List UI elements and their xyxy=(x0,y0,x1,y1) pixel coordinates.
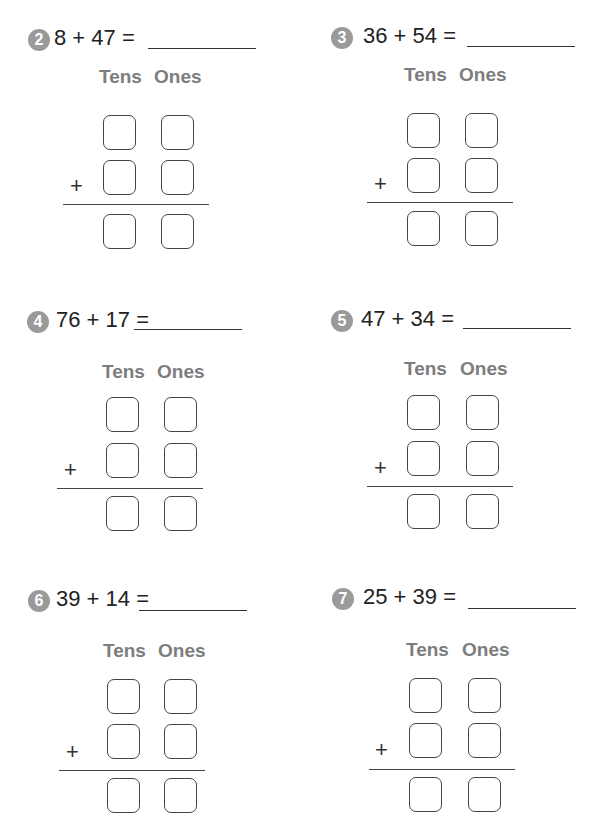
equation-text: 47 + 34 = xyxy=(361,306,454,332)
addend1-ones-box[interactable] xyxy=(466,395,499,430)
plus-sign: + xyxy=(375,737,388,763)
problem-5: 5 47 + 34 = Tens Ones + xyxy=(331,310,605,580)
sum-ones-box[interactable] xyxy=(465,211,498,246)
addend1-ones-box[interactable] xyxy=(465,113,498,148)
sum-tens-box[interactable] xyxy=(409,777,442,812)
sum-rule xyxy=(367,486,513,487)
ones-header: Ones xyxy=(154,66,202,88)
problem-7: 7 25 + 39 = Tens Ones + xyxy=(332,588,605,837)
tens-header: Tens xyxy=(102,361,145,383)
addend2-ones-box[interactable] xyxy=(164,724,197,759)
addend2-ones-box[interactable] xyxy=(161,160,194,195)
sum-tens-box[interactable] xyxy=(407,494,440,529)
answer-blank[interactable] xyxy=(467,46,575,47)
problem-4: 4 76 + 17 = Tens Ones + xyxy=(27,311,327,581)
sum-tens-box[interactable] xyxy=(106,496,139,531)
equation-text: 8 + 47 = xyxy=(54,25,135,51)
tens-header: Tens xyxy=(404,64,447,86)
addend1-tens-box[interactable] xyxy=(103,115,136,150)
answer-blank[interactable] xyxy=(463,328,571,329)
addend1-tens-box[interactable] xyxy=(407,395,440,430)
addend1-tens-box[interactable] xyxy=(407,113,440,148)
addend2-tens-box[interactable] xyxy=(407,158,440,193)
sum-rule xyxy=(367,202,513,203)
plus-sign: + xyxy=(70,173,83,199)
tens-header: Tens xyxy=(406,639,449,661)
answer-blank[interactable] xyxy=(134,329,242,330)
ones-header: Ones xyxy=(460,358,508,380)
tens-header: Tens xyxy=(99,66,142,88)
sum-tens-box[interactable] xyxy=(407,211,440,246)
sum-rule xyxy=(59,770,205,771)
addend1-tens-box[interactable] xyxy=(409,678,442,713)
tens-header: Tens xyxy=(404,358,447,380)
tens-header: Tens xyxy=(103,640,146,662)
plus-sign: + xyxy=(66,739,79,765)
sum-tens-box[interactable] xyxy=(107,778,140,813)
problem-3: 3 36 + 54 = Tens Ones + xyxy=(331,27,605,297)
sum-ones-box[interactable] xyxy=(164,496,197,531)
plus-sign: + xyxy=(64,457,77,483)
problem-6: 6 39 + 14 = Tens Ones + xyxy=(28,590,328,837)
plus-sign: + xyxy=(374,455,387,481)
addend2-ones-box[interactable] xyxy=(466,441,499,476)
addend1-ones-box[interactable] xyxy=(164,397,197,432)
sum-tens-box[interactable] xyxy=(103,214,136,249)
answer-blank[interactable] xyxy=(468,608,576,609)
sum-ones-box[interactable] xyxy=(164,778,197,813)
addend2-tens-box[interactable] xyxy=(106,443,139,478)
ones-header: Ones xyxy=(157,361,205,383)
addend2-ones-box[interactable] xyxy=(465,158,498,193)
problem-number-badge: 7 xyxy=(332,588,354,610)
problem-2: 2 8 + 47 = Tens Ones + xyxy=(28,29,328,299)
ones-header: Ones xyxy=(158,640,206,662)
addend1-ones-box[interactable] xyxy=(161,115,194,150)
equation-text: 25 + 39 = xyxy=(363,584,456,610)
addend1-tens-box[interactable] xyxy=(106,397,139,432)
problem-number-badge: 6 xyxy=(28,590,50,612)
addend1-tens-box[interactable] xyxy=(107,679,140,714)
ones-header: Ones xyxy=(462,639,510,661)
sum-rule xyxy=(369,769,515,770)
sum-ones-box[interactable] xyxy=(466,494,499,529)
answer-blank[interactable] xyxy=(139,610,247,611)
equation-text: 39 + 14 = xyxy=(56,586,149,612)
sum-ones-box[interactable] xyxy=(161,214,194,249)
addend2-ones-box[interactable] xyxy=(164,443,197,478)
addend1-ones-box[interactable] xyxy=(468,678,501,713)
addend2-tens-box[interactable] xyxy=(409,723,442,758)
problem-number-badge: 2 xyxy=(28,29,50,51)
addend2-tens-box[interactable] xyxy=(103,160,136,195)
problem-number-badge: 4 xyxy=(27,311,49,333)
addend1-ones-box[interactable] xyxy=(164,679,197,714)
plus-sign: + xyxy=(374,171,387,197)
addend2-tens-box[interactable] xyxy=(107,724,140,759)
sum-ones-box[interactable] xyxy=(468,777,501,812)
problem-number-badge: 3 xyxy=(331,27,353,49)
addend2-ones-box[interactable] xyxy=(468,723,501,758)
ones-header: Ones xyxy=(459,64,507,86)
sum-rule xyxy=(57,488,203,489)
addend2-tens-box[interactable] xyxy=(407,441,440,476)
problem-number-badge: 5 xyxy=(331,310,353,332)
answer-blank[interactable] xyxy=(148,48,256,49)
equation-text: 36 + 54 = xyxy=(363,23,456,49)
sum-rule xyxy=(63,204,209,205)
